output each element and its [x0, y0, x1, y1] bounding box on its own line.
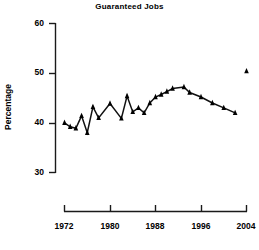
- plot-area: [0, 0, 259, 250]
- isolated-marker-2004: [244, 68, 249, 73]
- data-series: [62, 68, 249, 135]
- data-point-1985: [136, 105, 141, 110]
- data-point-2004: [244, 68, 249, 73]
- data-point-1983: [125, 93, 130, 98]
- y-axis: [49, 23, 56, 173]
- series-line: [65, 87, 236, 133]
- data-point-1977: [91, 104, 96, 109]
- data-point-1980: [108, 100, 113, 105]
- x-axis: [64, 205, 247, 212]
- data-point-1976: [85, 130, 90, 135]
- chart-figure: Guaranteed Jobs Percentage 60 50 40 30 1…: [0, 0, 259, 250]
- data-point-1975: [79, 113, 84, 118]
- data-point-1972: [62, 120, 67, 125]
